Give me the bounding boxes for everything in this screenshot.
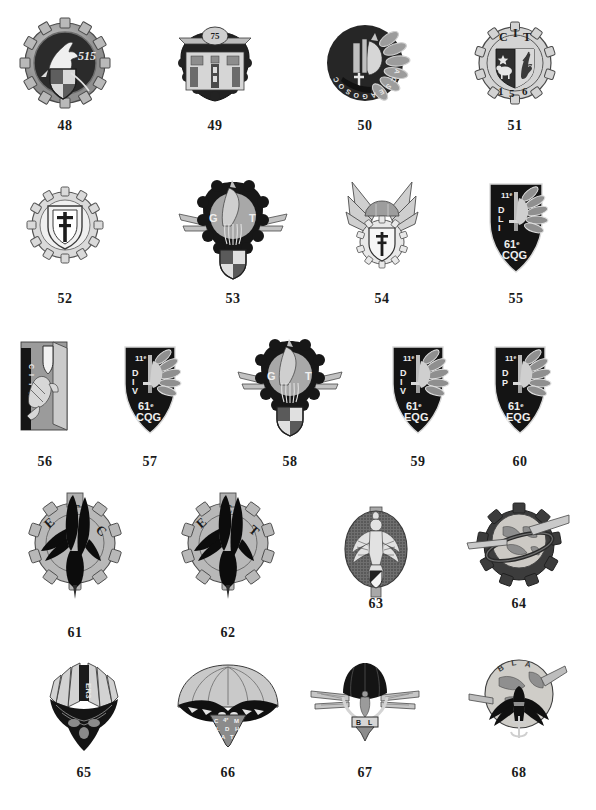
svg-text:B: B <box>356 719 361 726</box>
badge-64-artwork <box>467 499 571 591</box>
svg-text:L: L <box>368 719 373 726</box>
badge-item-56: C I T H <box>10 340 80 436</box>
badge-caption-50: 50 <box>323 119 407 133</box>
badge-51-artwork: C I T 1 5 6 <box>476 22 554 104</box>
badge-53-artwork: G T <box>177 180 289 280</box>
svg-text:EQG: EQG <box>404 411 428 423</box>
svg-text:G: G <box>267 370 276 382</box>
badge-caption-55: 55 <box>479 292 553 306</box>
badge-caption-61: 61 <box>23 626 127 640</box>
svg-text:M: M <box>234 718 239 724</box>
badge-60-artwork: 11e DP 61e EQG <box>484 343 556 437</box>
svg-text:515: 515 <box>78 49 96 63</box>
badge-item-65: ER3 <box>42 659 126 755</box>
badge-item-57: 11e DIV 61e CQG <box>114 343 186 437</box>
badge-63-artwork <box>340 505 412 601</box>
svg-text:D: D <box>225 726 230 732</box>
badge-61-artwork: E T C 1 <box>23 493 127 611</box>
badge-65-artwork: ER3 <box>42 659 126 755</box>
svg-text:ER3: ER3 <box>84 683 93 699</box>
badge-caption-57: 57 <box>114 455 186 469</box>
svg-text:T: T <box>249 212 256 224</box>
svg-text:I: I <box>498 223 501 233</box>
badge-item-49: 75 <box>178 21 252 105</box>
svg-text:I: I <box>28 374 35 376</box>
svg-text:CQG: CQG <box>502 249 527 261</box>
badge-item-68: B L A <box>467 652 571 748</box>
badge-item-63 <box>340 505 412 601</box>
badge-62-artwork: E C T 1 <box>176 493 280 611</box>
badge-68-artwork: B L A <box>467 652 571 748</box>
badge-item-60: 11e DP 61e EQG <box>484 343 556 437</box>
badge-caption-66: 66 <box>169 766 287 780</box>
svg-text:5: 5 <box>509 87 515 99</box>
svg-text:G: G <box>362 93 368 100</box>
badge-52-artwork <box>26 185 104 265</box>
badge-item-54 <box>339 180 425 276</box>
badge-57-artwork: 11e DIV 61e CQG <box>114 343 186 437</box>
badge-caption-58: 58 <box>236 455 344 469</box>
badge-59-artwork: 11e DIV 61e EQG <box>382 343 454 437</box>
svg-text:1: 1 <box>498 85 504 97</box>
badge-48-artwork: 515 <box>22 17 108 109</box>
badge-item-58: G T <box>236 338 344 438</box>
badge-caption-53: 53 <box>177 292 289 306</box>
svg-text:EQG: EQG <box>506 411 530 423</box>
svg-text:L: L <box>216 726 220 732</box>
badge-item-53: G T <box>177 180 289 280</box>
badge-caption-65: 65 <box>42 766 126 780</box>
badge-50-artwork: C O S O G A E S C A <box>323 21 407 105</box>
svg-text:6: 6 <box>522 85 528 97</box>
svg-text:I: I <box>513 26 518 40</box>
svg-text:T: T <box>305 370 312 382</box>
badge-item-50: C O S O G A E S C A <box>323 21 407 105</box>
badge-caption-67: 67 <box>310 766 420 780</box>
badge-caption-62: 62 <box>176 626 280 640</box>
badge-item-48: 515 <box>22 17 108 109</box>
badge-54-artwork <box>339 180 425 276</box>
svg-text:CQG: CQG <box>136 411 161 423</box>
badge-caption-51: 51 <box>476 119 554 133</box>
badge-item-62: E C T 1 <box>176 493 280 611</box>
svg-text:L: L <box>511 658 517 668</box>
badge-caption-59: 59 <box>382 455 454 469</box>
svg-text:P: P <box>502 378 508 388</box>
svg-text:V: V <box>132 386 138 396</box>
badge-caption-48: 48 <box>22 119 108 133</box>
svg-text:75: 75 <box>211 31 221 41</box>
svg-text:C: C <box>214 718 219 724</box>
badge-caption-54: 54 <box>339 292 425 306</box>
badge-item-59: 11e DIV 61e EQG <box>382 343 454 437</box>
svg-text:C: C <box>28 364 35 369</box>
badge-caption-60: 60 <box>484 455 556 469</box>
badge-caption-63: 63 <box>340 597 412 611</box>
badge-67-artwork: BL <box>310 659 420 751</box>
badge-caption-56: 56 <box>10 455 80 469</box>
badge-item-67: BL <box>310 659 420 751</box>
svg-text:D: D <box>502 368 509 378</box>
svg-text:T: T <box>230 734 234 740</box>
svg-text:G: G <box>209 212 218 224</box>
svg-text:C: C <box>499 30 508 44</box>
badge-item-66: C 4e M L D H A T <box>169 659 287 751</box>
badge-55-artwork: 11e DLI <box>479 180 553 276</box>
svg-text:H: H <box>235 726 239 732</box>
svg-text:A: A <box>221 734 226 740</box>
badge-item-64 <box>467 499 571 591</box>
badge-caption-68: 68 <box>467 766 571 780</box>
badge-item-52 <box>26 185 104 265</box>
badge-49-artwork: 75 <box>178 21 252 105</box>
insignia-plate: 515 48 <box>0 0 596 810</box>
badge-58-artwork: G T <box>236 338 344 438</box>
badge-caption-49: 49 <box>178 119 252 133</box>
badge-item-51: C I T 1 5 6 <box>476 22 554 104</box>
badge-56-artwork: C I T H <box>10 340 80 436</box>
badge-item-61: E T C 1 <box>23 493 127 611</box>
badge-caption-64: 64 <box>467 597 571 611</box>
svg-text:T: T <box>523 30 531 44</box>
badge-item-55: 11e DLI <box>479 180 553 276</box>
svg-text:V: V <box>400 386 406 396</box>
badge-caption-52: 52 <box>26 292 104 306</box>
badge-66-artwork: C 4e M L D H A T <box>169 659 287 751</box>
